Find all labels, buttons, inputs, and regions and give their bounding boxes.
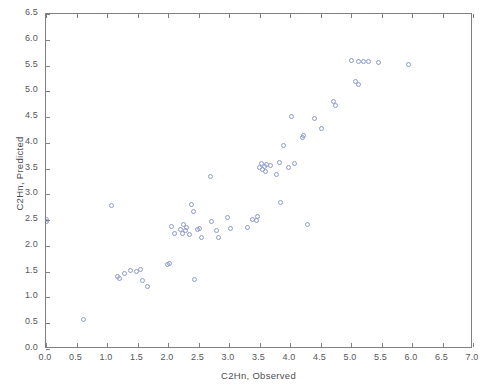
x-tick-mark — [290, 343, 291, 347]
y-tick-label: 0.0 — [8, 342, 38, 352]
x-tick-mark — [138, 343, 139, 347]
y-tick-mark — [46, 169, 50, 170]
x-tick-mark — [77, 343, 78, 347]
data-point — [255, 214, 260, 219]
data-point — [209, 219, 214, 224]
x-tick-mark — [229, 343, 230, 347]
y-tick-label: 0.5 — [8, 316, 38, 326]
x-tick-mark — [107, 343, 108, 347]
x-tick-mark-top — [107, 14, 108, 18]
y-axis-title: C2Hn, Predicted — [14, 104, 25, 244]
y-tick-mark — [46, 194, 50, 195]
x-tick-mark — [321, 343, 322, 347]
y-tick-label: 1.5 — [8, 265, 38, 275]
data-point — [138, 267, 143, 272]
data-point — [214, 228, 219, 233]
y-tick-mark — [46, 323, 50, 324]
x-tick-mark-top — [260, 14, 261, 18]
y-tick-mark — [46, 297, 50, 298]
data-point — [268, 163, 273, 168]
data-point — [376, 60, 381, 65]
x-tick-mark-top — [351, 14, 352, 18]
data-point — [122, 271, 127, 276]
y-tick-mark — [46, 349, 50, 350]
x-tick-mark-top — [77, 14, 78, 18]
x-tick-mark-top — [382, 14, 383, 18]
data-point — [305, 222, 310, 227]
x-tick-mark-top — [290, 14, 291, 18]
y-tick-mark — [46, 66, 50, 67]
data-point — [192, 277, 197, 282]
x-tick-mark-top — [412, 14, 413, 18]
x-tick-mark — [168, 343, 169, 347]
x-tick-mark — [382, 343, 383, 347]
y-tick-mark — [46, 91, 50, 92]
data-point — [184, 225, 189, 230]
y-tick-mark — [46, 220, 50, 221]
data-point — [319, 126, 324, 131]
data-point — [286, 165, 291, 170]
data-point — [208, 174, 213, 179]
y-tick-mark — [46, 246, 50, 247]
data-point — [191, 209, 196, 214]
data-point — [197, 226, 202, 231]
y-tick-label: 6.5 — [8, 7, 38, 17]
data-point — [333, 103, 338, 108]
data-point — [406, 62, 411, 67]
x-tick-label: 7.0 — [452, 352, 486, 362]
data-point — [225, 215, 230, 220]
data-point — [128, 268, 133, 273]
data-point — [263, 169, 268, 174]
data-point — [187, 232, 192, 237]
data-point — [292, 161, 297, 166]
data-point — [169, 224, 174, 229]
data-point — [228, 226, 233, 231]
x-tick-mark — [412, 343, 413, 347]
x-tick-mark-top — [168, 14, 169, 18]
data-point — [356, 82, 361, 87]
x-tick-mark — [351, 343, 352, 347]
y-tick-mark — [46, 14, 50, 15]
data-point — [245, 225, 250, 230]
y-tick-mark — [46, 143, 50, 144]
data-point — [366, 59, 371, 64]
x-tick-mark-top — [443, 14, 444, 18]
scatter-plot-figure: 0.00.51.01.52.02.53.03.54.04.55.05.56.06… — [0, 0, 486, 392]
data-point — [172, 231, 177, 236]
data-point — [167, 261, 172, 266]
data-point — [189, 202, 194, 207]
y-tick-label: 6.0 — [8, 33, 38, 43]
data-point — [361, 59, 366, 64]
y-tick-label: 5.0 — [8, 84, 38, 94]
data-point — [349, 58, 354, 63]
x-tick-mark-top — [473, 14, 474, 18]
data-point — [199, 235, 204, 240]
y-tick-mark — [46, 272, 50, 273]
data-point — [277, 160, 282, 165]
data-point — [278, 200, 283, 205]
x-tick-mark — [443, 343, 444, 347]
data-point — [281, 143, 286, 148]
y-tick-mark — [46, 117, 50, 118]
x-tick-mark-top — [138, 14, 139, 18]
x-tick-mark — [199, 343, 200, 347]
data-point — [289, 114, 294, 119]
data-point — [109, 203, 114, 208]
x-tick-mark-top — [321, 14, 322, 18]
x-tick-mark — [260, 343, 261, 347]
data-point — [216, 235, 221, 240]
data-point — [81, 317, 86, 322]
x-tick-mark — [46, 343, 47, 347]
y-tick-label: 5.5 — [8, 59, 38, 69]
data-points-layer — [46, 14, 471, 347]
data-point — [274, 172, 279, 177]
y-tick-label: 1.0 — [8, 290, 38, 300]
plot-area — [45, 13, 472, 348]
data-point — [145, 284, 150, 289]
data-point — [301, 133, 306, 138]
x-tick-mark-top — [229, 14, 230, 18]
x-axis-title: C2Hn, Observed — [45, 370, 472, 381]
data-point — [140, 278, 145, 283]
data-point — [312, 116, 317, 121]
x-tick-mark — [473, 343, 474, 347]
